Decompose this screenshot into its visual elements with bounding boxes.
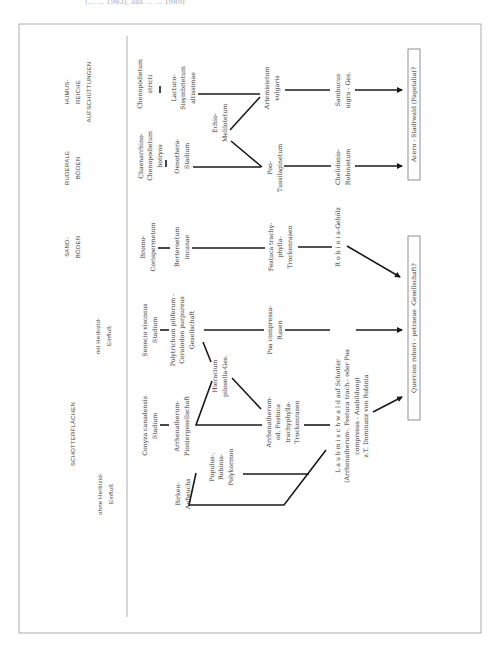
node-robinia-gehoelz: R o b i n i a-Gehölz — [334, 207, 341, 267]
edge-echio-artemisietum — [230, 97, 260, 130]
node-conyza-stadium: Conyza canadensisStadium — [141, 396, 158, 456]
header-schotter: SCHOTTERFLÄCHEN — [70, 402, 76, 466]
box-label: Quercion robori - petraeae -Gesellschaft… — [410, 262, 418, 392]
target-boxes: Acero - Stadtwald (Fagetalia)?Quercion r… — [408, 49, 420, 420]
node-laubmischwald: L a u b m i s c h w a l d auf Schotter(A… — [334, 349, 370, 483]
figure-caption-fragment: (… … 1983), aus … … 1989) — [85, 0, 185, 6]
succession-diagram: (… … 1983), aus … … 1989) — [0, 0, 501, 651]
node-festuca-trockenrasen: Festuca trachy-phylla-Trockenrasen — [267, 223, 293, 272]
node-oenothera-stadium: Oenothera-Stadium — [173, 138, 190, 173]
node-arrhenatherum-pionier: Arrhenatherum-Pioniergesellschaft — [173, 396, 191, 456]
diagram-canvas: (… … 1983), aus … … 1989) — [0, 0, 501, 651]
header-ohne-herbizid: ohne Herbizid-Einfluß — [97, 473, 114, 515]
column-headers: HUMUS-REICHEAUFSCHÜTTUNGENRUDERALEBÖDENS… — [64, 62, 114, 515]
node-lactuco-sisymbrietum: Lactuco-Sisymbrietumaltissimae — [170, 66, 196, 110]
edge-polytrichum-hieracium — [203, 342, 211, 362]
node-hieracium: Hieraciumpilosella-Ges. — [211, 355, 229, 397]
edge-echio-poo — [231, 141, 262, 167]
node-sambucus: Sambucusnigra - Ges. — [334, 72, 352, 108]
box-acero-stadtwald: Acero - Stadtwald (Fagetalia)? — [408, 49, 420, 180]
node-chenopodietum-stricti: Chenopodietumstricti — [136, 59, 153, 109]
arrow-robinia-querco — [347, 246, 400, 277]
node-populus-polykormon: Populus-,Robinia-Polykormon — [208, 448, 235, 485]
box-label: Acero - Stadtwald (Fagetalia)? — [410, 66, 418, 163]
node-birken-aufwuchs: Birken-Aufwuchs — [174, 479, 191, 511]
header-mit-herbizid: mit Herbizid-Einfluß — [95, 318, 112, 354]
header-ruderale: RUDERALEBÖDEN — [64, 151, 81, 185]
header-sand: SAND-BÖDEN — [64, 236, 81, 258]
node-bromo-corispermetum: Bromo-Corispermetum — [139, 222, 157, 271]
node-poa-compressa-rasen: Poa compressa-Rasen — [266, 305, 283, 354]
node-senecio-stadium: Senecio viscosusStadium — [141, 304, 158, 357]
node-berteroetum: Berteroetumincanae — [173, 227, 190, 267]
node-polytrichum-gesellschaft: Polytrichum piliferum -Ceratodon purpure… — [169, 294, 195, 367]
edge-arrhenatherum-hieracium-festuca — [196, 381, 262, 425]
community-nodes: ChenopodietumstrictiLactuco-Sisymbrietum… — [136, 59, 369, 510]
arrow-laubmischwald-querco — [373, 397, 402, 412]
edge-hieracium-arrhenatherum-festuca — [232, 378, 261, 409]
node-artemisietum: Artemisietumvulgaris — [263, 67, 281, 111]
node-chelidonio-robinietum: Chelidonio-Robinietum — [334, 149, 351, 185]
node-echio-melilotetum: Echio-Melilotetum — [211, 104, 228, 142]
node-chenarrhino-chenopodietum: Chaenarrhino-Chenopodietumbotryos — [137, 131, 164, 181]
node-arrhenatherum-festuca: Arrhenatherum-od. Festucatrachyphylla-Tr… — [265, 397, 301, 449]
node-poo-tussilaginetum: Poo-Tussilaginetum — [266, 144, 284, 192]
header-humus: HUMUS-REICHEAUFSCHÜTTUNGEN — [64, 62, 92, 123]
box-querco-gesellschaft: Quercion robori - petraeae -Gesellschaft… — [408, 236, 420, 420]
